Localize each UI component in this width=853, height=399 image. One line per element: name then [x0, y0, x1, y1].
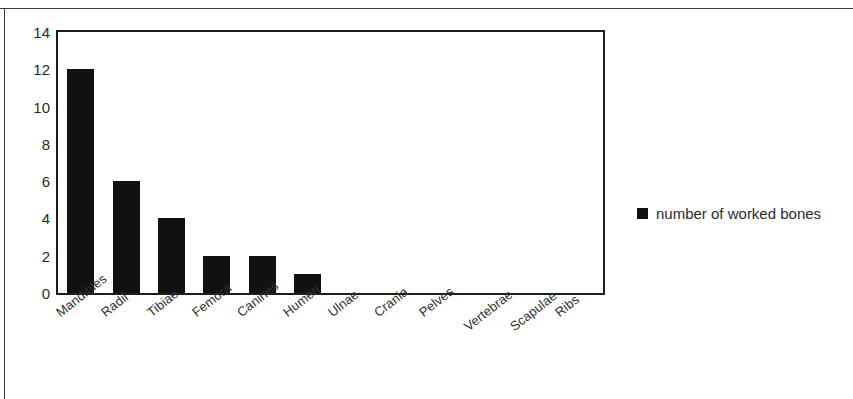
x-tick-label: Femora	[189, 280, 234, 320]
bar-chart-figure: 02468101214 MandiblesRadiiTibiaeFemoraCa…	[0, 0, 853, 399]
x-tick-label: Radii	[98, 289, 131, 319]
x-tick-label: Tibiae	[144, 286, 181, 320]
x-tick-label: Vertebrae	[461, 287, 515, 334]
x-tick-label: Crania	[371, 284, 411, 320]
x-tick-label: Pelves	[416, 284, 456, 320]
x-axis-tick-labels: MandiblesRadiiTibiaeFemoraCaninesHumeriU…	[0, 0, 853, 399]
chart-legend: number of worked bones	[637, 205, 821, 222]
x-tick-label: Ulnae	[325, 287, 361, 320]
legend-swatch-icon	[637, 208, 648, 219]
x-tick-label: Canines	[234, 278, 281, 320]
x-tick-label: Humeri	[280, 282, 323, 320]
legend-label: number of worked bones	[656, 205, 821, 222]
x-tick-label: Scapulae	[507, 288, 560, 334]
